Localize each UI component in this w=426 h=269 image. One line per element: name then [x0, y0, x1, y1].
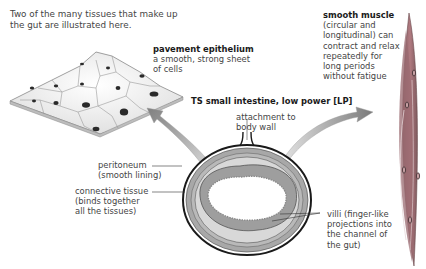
- connective-line: connective tissue: [75, 186, 148, 196]
- villi-line: the channel of: [327, 229, 392, 239]
- attachment-label: attachment to body wall: [236, 112, 296, 132]
- attachment-line: body wall: [236, 122, 296, 132]
- intro-text: Two of the many tissues that make up the…: [10, 9, 178, 31]
- muscle-desc: (circular and: [323, 20, 400, 30]
- peritoneum-line: (smooth lining): [98, 170, 161, 180]
- villi-label: villi (finger-like projections into the …: [327, 209, 392, 250]
- peritoneum-line: peritoneum: [98, 160, 161, 170]
- smooth-muscle-label: smooth muscle (circular and longitudinal…: [323, 10, 400, 81]
- muscle-title: smooth muscle: [323, 10, 400, 20]
- intro-line: the gut are illustrated here.: [10, 20, 178, 31]
- pavement-title: pavement epithelium: [153, 44, 254, 54]
- attachment-line: attachment to: [236, 112, 296, 122]
- pavement-desc: of cells: [153, 64, 254, 74]
- intestine-cross-section: [183, 120, 311, 255]
- intro-line: Two of the many tissues that make up: [10, 9, 178, 20]
- connective-line: (binds together: [75, 196, 148, 206]
- muscle-desc: longitudinal) can: [323, 30, 400, 40]
- muscle-desc: contract and relax: [323, 41, 400, 51]
- muscle-desc: without fatigue: [323, 71, 400, 81]
- section-title: TS small intestine, low power [LP]: [191, 96, 352, 106]
- connective-line: all the tissues): [75, 206, 148, 216]
- smooth-muscle-illustration: [399, 13, 419, 266]
- villi-line: projections into: [327, 219, 392, 229]
- pavement-epithelium-label: pavement epithelium a smooth, strong she…: [153, 44, 254, 75]
- connective-tissue-label: connective tissue (binds together all th…: [75, 186, 148, 217]
- villi-line: the gut): [327, 240, 392, 250]
- arrow-to-epithelium: [147, 108, 206, 162]
- muscle-desc: long periods: [323, 61, 400, 71]
- villi-line: villi (finger-like: [327, 209, 392, 219]
- pavement-desc: a smooth, strong sheet: [153, 54, 254, 64]
- muscle-desc: repeatedly for: [323, 51, 400, 61]
- peritoneum-label: peritoneum (smooth lining): [98, 160, 161, 180]
